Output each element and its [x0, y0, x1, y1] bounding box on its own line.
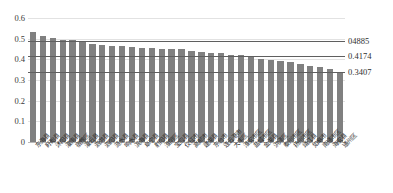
- bar[interactable]: [129, 47, 135, 142]
- reference-line: [28, 56, 345, 57]
- bar[interactable]: [218, 53, 224, 142]
- plot-area: [28, 18, 345, 142]
- bar[interactable]: [109, 46, 115, 143]
- bar-chart: 0.60.50.40.30.20.10 048850.41740.3407 东海…: [0, 0, 393, 193]
- bar-slot: [335, 18, 345, 142]
- y-axis-tick-label: 0.3: [14, 76, 25, 85]
- bar-slot: [266, 18, 276, 142]
- bar-slot: [147, 18, 157, 142]
- bar[interactable]: [149, 48, 155, 142]
- bar-slot: [216, 18, 226, 142]
- x-axis-labels: 东海县盱眙县沭阳县灌南县宿豫区灌云县泗洪县泗阳县涟水县响水县滨海县阜宁县射阳县淮…: [28, 143, 345, 193]
- reference-line: [28, 72, 345, 73]
- y-axis-tick-label: 0.5: [14, 34, 25, 43]
- bar-slot: [206, 18, 216, 142]
- y-axis: 0.60.50.40.30.20.10: [0, 0, 28, 142]
- y-axis-tick-label: 0.2: [14, 96, 25, 105]
- bar-slot: [286, 18, 296, 142]
- bar-slot: [295, 18, 305, 142]
- bar-slot: [107, 18, 117, 142]
- bar-slot: [276, 18, 286, 142]
- y-axis-tick-label: 0: [21, 138, 25, 147]
- bar[interactable]: [178, 49, 184, 142]
- bar-slot: [38, 18, 48, 142]
- bar-slot: [58, 18, 68, 142]
- bar-slot: [97, 18, 107, 142]
- bar-slot: [78, 18, 88, 142]
- bar-slot: [87, 18, 97, 142]
- bar[interactable]: [208, 53, 214, 142]
- bar[interactable]: [50, 38, 56, 142]
- bar-slot: [167, 18, 177, 142]
- bar-slot: [137, 18, 147, 142]
- bar[interactable]: [168, 49, 174, 142]
- bar[interactable]: [198, 52, 204, 142]
- bar-slot: [256, 18, 266, 142]
- reference-line-label: 0.3407: [348, 67, 371, 76]
- reference-line-label: 04885: [348, 37, 369, 46]
- bar-slot: [196, 18, 206, 142]
- bar[interactable]: [159, 49, 165, 142]
- bar-series: [28, 18, 345, 142]
- bar-slot: [127, 18, 137, 142]
- bar-slot: [236, 18, 246, 142]
- y-axis-tick-label: 0.1: [14, 117, 25, 126]
- bar[interactable]: [40, 36, 46, 142]
- bar-slot: [305, 18, 315, 142]
- bar[interactable]: [119, 46, 125, 142]
- y-axis-tick-label: 0.4: [14, 55, 25, 64]
- bar[interactable]: [99, 45, 105, 142]
- bar-slot: [28, 18, 38, 142]
- bar[interactable]: [188, 51, 194, 142]
- y-axis-tick-label: 0.6: [14, 14, 25, 23]
- bar-slot: [68, 18, 78, 142]
- bar-slot: [157, 18, 167, 142]
- bar-slot: [48, 18, 58, 142]
- bar-slot: [177, 18, 187, 142]
- reference-line-label: 0.4174: [348, 51, 371, 60]
- bar-slot: [246, 18, 256, 142]
- bar[interactable]: [89, 44, 95, 142]
- bar[interactable]: [139, 48, 145, 142]
- bar-slot: [226, 18, 236, 142]
- reference-line: [28, 41, 345, 42]
- bar[interactable]: [30, 32, 36, 142]
- bar-slot: [315, 18, 325, 142]
- bar-slot: [187, 18, 197, 142]
- bar-slot: [325, 18, 335, 142]
- bar-slot: [117, 18, 127, 142]
